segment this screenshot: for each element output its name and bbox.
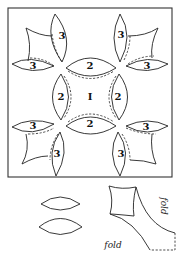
cluster-top-left [12,14,67,71]
label-melon-top: 2 [87,60,94,71]
label-petal-bl-upper: 3 [30,120,37,131]
label-fold-bottom: fold [103,240,122,250]
label-melon-bottom: 2 [87,118,94,129]
label-melon-left: 2 [58,91,65,102]
label-petal-br-upper: 3 [143,121,150,132]
label-melon-right: 2 [115,91,122,102]
label-petal-bl-lower: 3 [54,148,61,159]
label-petal-tl-lower: 3 [30,60,37,71]
quilt-diagram: I 2 2 2 2 3 3 3 3 3 3 3 3 fold fold [0,0,187,253]
label-fold-side: fold [159,196,169,215]
label-petal-br-lower: 3 [118,148,125,159]
label-center: I [88,91,93,102]
label-petal-tl-upper: 3 [59,30,66,41]
cluster-top-right [114,14,168,71]
label-petal-tr-lower: 3 [144,60,151,71]
template-melon-large [39,219,82,235]
template-melon-small [41,197,80,210]
label-petal-tr-upper: 3 [118,29,125,40]
